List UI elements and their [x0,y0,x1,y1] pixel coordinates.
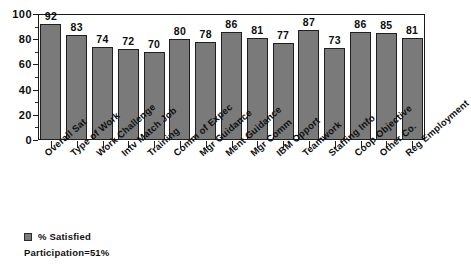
y-tick-label: 100 [0,9,32,20]
y-tick-label: 0 [0,135,32,146]
y-tick-mark [33,64,38,65]
legend-swatch-icon [24,233,32,241]
y-tick-mark-minor [35,52,38,53]
legend-label: % Satisfied [38,231,91,242]
legend-item-satisfied: % Satisfied [24,230,284,243]
y-tick-mark-minor [35,27,38,28]
y-tick-mark [33,140,38,141]
y-tick-mark-minor [35,102,38,103]
y-tick-mark-minor [35,127,38,128]
y-tick-mark [33,14,38,15]
y-axis: 100806040200 [0,0,32,269]
y-tick-mark [33,39,38,40]
y-tick-mark [33,115,38,116]
y-tick-mark [33,90,38,91]
y-tick-label: 20 [0,109,32,120]
y-tick-label: 80 [0,34,32,45]
y-tick-label: 40 [0,84,32,95]
chart-legend: % Satisfied Participation=51% [24,230,284,258]
y-tick-mark-minor [35,77,38,78]
bar[interactable] [40,24,61,140]
participation-note: Participation=51% [24,247,284,258]
y-tick-label: 60 [0,59,32,70]
